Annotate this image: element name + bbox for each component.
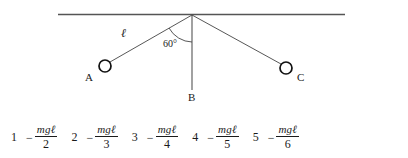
physics-figure: A B C ℓ 60° 1 − mgℓ 2 2 − mgℓ (0, 0, 408, 158)
answer-option-1-fraction: mgℓ 2 (35, 124, 58, 150)
answer-option-2-index: 2 (71, 130, 77, 145)
answer-option-2-numerator: mgℓ (95, 124, 118, 136)
answer-option-3-expression: − mgℓ 4 (147, 124, 178, 150)
answer-option-1-expression: − mgℓ 2 (26, 124, 57, 150)
answer-option-5-numerator: mgℓ (276, 124, 299, 136)
answer-option-4-numerator: mgℓ (216, 124, 239, 136)
answer-option-1-denominator: 2 (43, 137, 49, 150)
answer-option-3-sign: − (147, 131, 154, 146)
answer-option-2-denominator: 3 (104, 137, 110, 150)
string-length-label: ℓ (121, 27, 126, 39)
answer-option-1-numerator: mgℓ (35, 124, 58, 136)
answer-option-1-index: 1 (11, 130, 17, 145)
answer-option-3-fraction: mgℓ 4 (156, 124, 179, 150)
ball-a (99, 60, 111, 72)
pendulum-diagram-svg (0, 0, 408, 112)
answer-option-5-denominator: 6 (285, 137, 291, 150)
answer-option-5[interactable]: 5 − mgℓ 6 (253, 116, 299, 158)
string-to-c (192, 15, 281, 64)
answer-option-3-index: 3 (132, 130, 138, 145)
angle-label: 60° (163, 39, 177, 49)
pendulum-diagram: A B C ℓ 60° (0, 0, 408, 112)
ball-c (280, 62, 292, 74)
answer-option-5-expression: − mgℓ 6 (268, 124, 299, 150)
answer-option-3[interactable]: 3 − mgℓ 4 (132, 116, 178, 158)
answer-option-3-denominator: 4 (164, 137, 170, 150)
answer-option-4-denominator: 5 (224, 137, 230, 150)
answer-option-2-fraction: mgℓ 3 (95, 124, 118, 150)
answer-option-1-sign: − (26, 131, 33, 146)
answer-option-2-sign: − (86, 131, 93, 146)
answer-option-4[interactable]: 4 − mgℓ 5 (192, 116, 238, 158)
answer-option-2-expression: − mgℓ 3 (86, 124, 117, 150)
answer-option-4-expression: − mgℓ 5 (207, 124, 238, 150)
answer-option-1[interactable]: 1 − mgℓ 2 (11, 116, 57, 158)
answer-option-5-fraction: mgℓ 6 (276, 124, 299, 150)
point-b-label: B (188, 92, 195, 103)
ball-c-label: C (297, 72, 304, 83)
answer-option-3-numerator: mgℓ (156, 124, 179, 136)
answer-options-row: 1 − mgℓ 2 2 − mgℓ 3 3 (0, 116, 408, 158)
answer-option-4-fraction: mgℓ 5 (216, 124, 239, 150)
answer-option-4-sign: − (207, 131, 214, 146)
answer-option-2[interactable]: 2 − mgℓ 3 (71, 116, 117, 158)
answer-option-5-index: 5 (253, 130, 259, 145)
answer-option-5-sign: − (268, 131, 275, 146)
ball-a-label: A (85, 72, 93, 83)
answer-option-4-index: 4 (192, 130, 198, 145)
